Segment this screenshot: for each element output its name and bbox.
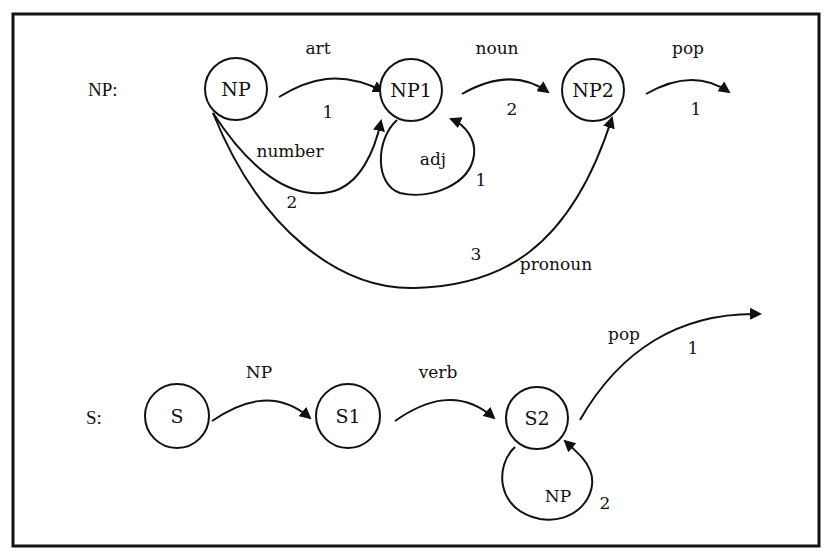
arc-s-s1-np xyxy=(212,401,310,421)
node-np-label: NP xyxy=(221,78,251,100)
arc-label-noun: noun xyxy=(475,38,518,58)
arc-label-adj: adj xyxy=(420,149,446,169)
arc-label-np-pop: pop xyxy=(672,38,704,58)
diagram-canvas: NP: NP NP1 NP2 art 1 number 2 pronoun 3 … xyxy=(0,0,827,554)
arc-label-verb: verb xyxy=(418,362,458,382)
rtn-diagram: NP: NP NP1 NP2 art 1 number 2 pronoun 3 … xyxy=(0,0,827,554)
arc-order-s2-np: 2 xyxy=(600,493,611,513)
arc-order-adj: 1 xyxy=(476,170,487,190)
arc-order-art: 1 xyxy=(323,102,334,122)
arc-order-np-pop: 1 xyxy=(691,99,702,119)
arc-label-pronoun: pronoun xyxy=(520,254,592,274)
node-s-label: S xyxy=(170,405,183,427)
arc-label-art: art xyxy=(305,38,330,58)
arc-s1-s2-verb xyxy=(395,400,494,421)
node-s1-label: S1 xyxy=(335,405,360,427)
arc-order-s-pop: 1 xyxy=(688,338,699,358)
arc-label-s2-np: NP xyxy=(545,486,571,506)
arc-s2-self-np xyxy=(502,441,592,520)
node-s2-label: S2 xyxy=(524,407,549,429)
arc-np2-pop xyxy=(646,80,729,94)
network-label-s: S: xyxy=(86,407,102,428)
node-np2-label: NP2 xyxy=(572,79,614,101)
arc-order-number: 2 xyxy=(287,192,298,212)
arc-label-s-np: NP xyxy=(246,362,272,382)
arc-label-number: number xyxy=(256,141,324,161)
arc-np-np1-art xyxy=(279,79,383,97)
arc-s2-pop xyxy=(580,314,760,420)
network-label-np: NP: xyxy=(88,79,118,100)
arc-order-pronoun: 3 xyxy=(471,244,482,264)
node-np1-label: NP1 xyxy=(390,79,432,101)
arc-order-noun: 2 xyxy=(507,99,518,119)
arc-label-s-pop: pop xyxy=(608,324,640,344)
arc-np1-np2-noun xyxy=(462,79,548,94)
